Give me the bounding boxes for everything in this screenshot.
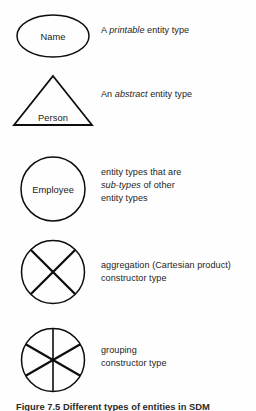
shape-label: Employee [32, 185, 74, 195]
symbol-cell [8, 324, 100, 396]
description-text: grouping constructor type [101, 344, 253, 370]
legend-row: Employee entity types that are sub-types… [0, 155, 256, 227]
description-line: entity types that are [101, 166, 253, 179]
description-text: A printable entity type [101, 24, 253, 37]
description-line: A printable entity type [101, 24, 253, 37]
legend-row: aggregation (Cartesian product) construc… [0, 238, 256, 310]
legend-row: Name A printable entity type [0, 12, 256, 70]
circle-entity-symbol: Employee [8, 155, 100, 225]
legend-row: grouping constructor type [0, 324, 256, 398]
description-line: An abstract entity type [101, 88, 253, 101]
shape-label: Name [41, 32, 66, 42]
symbol-cell: Employee [8, 155, 100, 225]
ellipse-entity-symbol: Name [8, 12, 100, 62]
figure-caption-label: Figure 7.5 [16, 401, 60, 411]
description-line: aggregation (Cartesian product) [101, 259, 253, 272]
emphasis-text: sub-types [101, 180, 141, 190]
description-line: constructor type [101, 272, 253, 285]
legend-row: Person An abstract entity type [0, 72, 256, 132]
emphasis-text: printable [109, 25, 144, 35]
description-line: grouping [101, 344, 253, 357]
description-line: entity types [101, 192, 253, 205]
description-line: constructor type [101, 357, 253, 370]
figure-sheet: Name A printable entity type Person An a… [0, 0, 256, 411]
aggregation-constructor-symbol [8, 238, 100, 308]
figure-caption-text: Different types of entities in SDM [63, 401, 210, 411]
description-text: aggregation (Cartesian product) construc… [101, 259, 253, 285]
symbol-cell: Name [8, 12, 100, 62]
figure-caption: Figure 7.5 Different types of entities i… [16, 401, 248, 411]
symbol-cell [8, 238, 100, 308]
triangle-entity-symbol: Person [8, 72, 100, 130]
emphasis-text: abstract [115, 89, 148, 99]
symbol-cell: Person [8, 72, 100, 130]
description-line: sub-types of other [101, 179, 253, 192]
description-text: entity types that are sub-types of other… [101, 166, 253, 206]
description-text: An abstract entity type [101, 88, 253, 101]
shape-label: Person [38, 113, 68, 123]
grouping-constructor-symbol [8, 324, 100, 396]
